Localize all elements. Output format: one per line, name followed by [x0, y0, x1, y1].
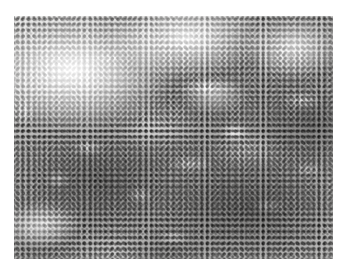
figure-caption	[14, 260, 333, 270]
figure-root	[0, 0, 340, 271]
histopathology-micrograph	[14, 16, 333, 259]
plate-edge-vignette	[14, 16, 333, 259]
